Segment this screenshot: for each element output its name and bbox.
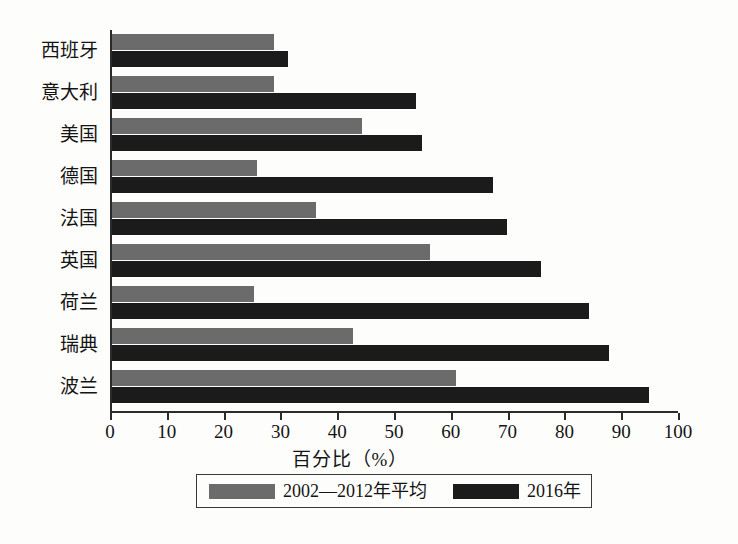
legend-swatch-average: [209, 484, 275, 499]
y-axis-label-5: 英国: [0, 251, 98, 271]
bar-average: [112, 328, 353, 344]
x-axis-tick-label: 40: [307, 421, 367, 443]
plot-area: [110, 30, 678, 413]
x-axis-tick-label: 100: [648, 421, 708, 443]
legend-label-average: 2002—2012年平均: [283, 482, 427, 500]
bar-average: [112, 286, 254, 302]
x-axis-tick-label: 80: [534, 421, 594, 443]
bar-average: [112, 370, 456, 386]
x-axis-tick-label: 30: [250, 421, 310, 443]
y-axis-label-0: 西班牙: [0, 41, 98, 61]
x-axis-tick: [337, 413, 339, 420]
x-axis-tick: [678, 413, 680, 420]
x-axis-tick: [508, 413, 510, 420]
bar-2016: [112, 219, 507, 235]
x-axis-tick: [564, 413, 566, 420]
bar-2016: [112, 387, 649, 403]
bar-group: [112, 242, 678, 284]
x-axis-tick: [394, 413, 396, 420]
x-axis-tick-label: 50: [364, 421, 424, 443]
bar-average: [112, 118, 362, 134]
x-axis-tick-label: 70: [478, 421, 538, 443]
bar-chart: 西班牙意大利美国德国法国英国荷兰瑞典波兰 0102030405060708090…: [0, 0, 738, 544]
bar-group: [112, 158, 678, 200]
bar-average: [112, 160, 257, 176]
bar-group: [112, 368, 678, 410]
bar-group: [112, 116, 678, 158]
bar-2016: [112, 135, 422, 151]
bar-2016: [112, 345, 609, 361]
y-axis-label-1: 意大利: [0, 83, 98, 103]
x-axis-tick-label: 90: [591, 421, 651, 443]
bar-2016: [112, 303, 589, 319]
y-axis-category-labels: 西班牙意大利美国德国法国英国荷兰瑞典波兰: [0, 30, 104, 413]
legend-swatch-2016: [453, 484, 519, 499]
bar-group: [112, 74, 678, 116]
legend: 2002—2012年平均 2016年: [196, 474, 592, 508]
bar-group: [112, 32, 678, 74]
legend-item-average: 2002—2012年平均: [209, 482, 427, 500]
bar-2016: [112, 261, 541, 277]
bar-group: [112, 200, 678, 242]
x-axis-title: 百分比（%）: [0, 444, 738, 471]
x-axis-tick: [280, 413, 282, 420]
x-axis-title-text: 百分比（%）: [292, 444, 409, 471]
bar-group: [112, 326, 678, 368]
bar-average: [112, 76, 274, 92]
y-axis-label-7: 瑞典: [0, 335, 98, 355]
x-axis-tick: [451, 413, 453, 420]
y-axis-label-2: 美国: [0, 125, 98, 145]
x-axis-tick-label: 20: [194, 421, 254, 443]
y-axis-label-6: 荷兰: [0, 293, 98, 313]
bar-average: [112, 244, 430, 260]
x-axis-tick: [224, 413, 226, 420]
bar-2016: [112, 51, 288, 67]
x-axis-tick-label: 10: [137, 421, 197, 443]
bar-average: [112, 202, 316, 218]
x-axis-tick: [621, 413, 623, 420]
y-axis-label-8: 波兰: [0, 377, 98, 397]
bar-2016: [112, 93, 416, 109]
y-axis-label-4: 法国: [0, 209, 98, 229]
x-axis-tick-label: 60: [421, 421, 481, 443]
x-axis-tick-label: 0: [80, 421, 140, 443]
y-axis-label-3: 德国: [0, 167, 98, 187]
legend-label-2016: 2016年: [527, 482, 581, 500]
x-axis-tick: [110, 413, 112, 420]
bar-group: [112, 284, 678, 326]
bar-average: [112, 34, 274, 50]
x-axis-tick: [167, 413, 169, 420]
bar-2016: [112, 177, 493, 193]
legend-item-2016: 2016年: [453, 482, 581, 500]
